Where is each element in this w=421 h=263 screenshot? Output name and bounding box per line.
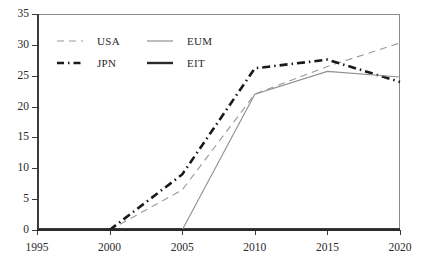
legend-row: USAEUM — [57, 30, 237, 52]
y-tick-label: 35 — [18, 8, 30, 20]
legend-item-jpn[interactable]: JPN — [57, 57, 147, 69]
legend-item-eit[interactable]: EIT — [147, 57, 237, 69]
legend-swatch-icon — [57, 35, 83, 47]
series-line-eum — [182, 71, 400, 230]
x-tick-label: 2015 — [297, 242, 357, 254]
legend-item-usa[interactable]: USA — [57, 35, 147, 47]
legend-swatch-icon — [147, 57, 173, 69]
y-tick-label: 20 — [18, 101, 30, 113]
legend-label: JPN — [97, 58, 116, 69]
legend-label: USA — [97, 36, 120, 47]
line-chart: 05101520253035 199520002005201020152020 … — [0, 0, 421, 263]
y-tick-label: 15 — [18, 131, 30, 143]
x-tick — [400, 230, 401, 235]
chart-legend: USAEUMJPNEIT — [57, 30, 237, 74]
legend-item-eum[interactable]: EUM — [147, 35, 237, 47]
legend-label: EUM — [187, 36, 212, 47]
x-tick-label: 2005 — [152, 242, 212, 254]
series-line-jpn — [110, 60, 400, 230]
x-tick-label: 2010 — [225, 242, 285, 254]
legend-label: EIT — [187, 58, 205, 69]
y-tick-label: 25 — [18, 70, 30, 82]
y-tick-label: 0 — [23, 224, 29, 236]
legend-swatch-icon — [147, 35, 173, 47]
x-tick-label: 1995 — [7, 242, 67, 254]
legend-swatch-icon — [57, 57, 83, 69]
x-tick-label: 2020 — [370, 242, 421, 254]
legend-row: JPNEIT — [57, 52, 237, 74]
y-tick-label: 5 — [23, 193, 29, 205]
y-tick-label: 10 — [18, 162, 30, 174]
x-tick-label: 2000 — [80, 242, 140, 254]
y-tick-label: 30 — [18, 39, 30, 51]
